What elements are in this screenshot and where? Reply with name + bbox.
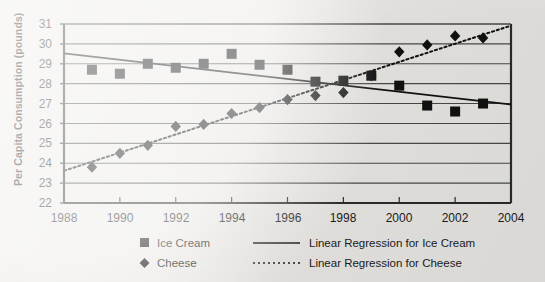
data-point-cheese <box>171 121 181 132</box>
square-marker-icon <box>140 238 149 247</box>
data-point-cheese <box>394 46 404 57</box>
y-tick-label: 24 <box>39 156 53 170</box>
data-point-ice-cream <box>143 59 153 69</box>
plot-area <box>60 24 511 203</box>
diamond-marker-icon <box>140 258 150 268</box>
data-point-ice-cream <box>283 65 293 75</box>
y-tick-label: 31 <box>39 17 53 31</box>
legend-label-ice-cream: Ice Cream <box>157 237 210 249</box>
data-point-cheese <box>450 30 460 41</box>
x-tick-label: 1992 <box>163 211 190 225</box>
chart-figure: Per Capita Consumption (pounds) 31 30 29… <box>0 0 545 282</box>
data-point-cheese <box>198 119 208 130</box>
y-tick-label: 29 <box>39 57 53 71</box>
x-tick-label: 2000 <box>386 211 413 225</box>
data-point-ice-cream <box>394 81 404 91</box>
x-tick-label: 1988 <box>51 211 78 225</box>
data-point-cheese <box>422 39 432 50</box>
legend-label-cheese: Cheese <box>157 257 197 269</box>
legend-label-regression-cheese: Linear Regression for Cheese <box>309 257 462 269</box>
y-tick-label: 30 <box>39 37 53 51</box>
x-tick-labels: 1988 1990 1992 1994 1996 1998 2000 2002 … <box>51 211 525 225</box>
data-point-ice-cream <box>199 59 209 69</box>
x-tick-label: 1990 <box>107 211 134 225</box>
x-tick-label: 2004 <box>498 211 525 225</box>
y-axis-title: Per Capita Consumption (pounds) <box>12 13 24 186</box>
chart-legend: Ice Cream Cheese Linear Regression for I… <box>140 237 476 269</box>
y-tick-label: 28 <box>39 77 53 91</box>
x-tick-label: 1994 <box>219 211 246 225</box>
data-point-ice-cream <box>478 99 488 109</box>
chart-canvas: Per Capita Consumption (pounds) 31 30 29… <box>0 0 545 282</box>
data-point-cheese <box>310 90 320 101</box>
y-tick-labels: 31 30 29 28 27 26 25 24 23 22 <box>39 17 53 210</box>
y-tick-label: 26 <box>39 117 53 131</box>
legend-label-regression-ice-cream: Linear Regression for Ice Cream <box>309 237 475 249</box>
x-tick-label: 1998 <box>330 211 357 225</box>
y-tick-label: 22 <box>39 196 53 210</box>
data-point-ice-cream <box>171 63 181 73</box>
data-point-ice-cream <box>310 77 320 87</box>
y-tick-label: 27 <box>39 97 53 111</box>
y-tick-label: 23 <box>39 176 53 190</box>
data-point-cheese <box>115 148 125 159</box>
y-tick-label: 25 <box>39 136 53 150</box>
x-tick-label: 2002 <box>442 211 469 225</box>
data-point-cheese <box>338 87 348 98</box>
data-point-ice-cream <box>227 49 237 59</box>
data-point-ice-cream <box>450 107 460 117</box>
data-point-ice-cream <box>422 101 432 111</box>
data-point-ice-cream <box>87 65 97 75</box>
data-point-ice-cream <box>338 76 348 86</box>
data-point-ice-cream <box>115 69 125 79</box>
x-tick-label: 1996 <box>275 211 302 225</box>
data-point-ice-cream <box>255 60 265 70</box>
